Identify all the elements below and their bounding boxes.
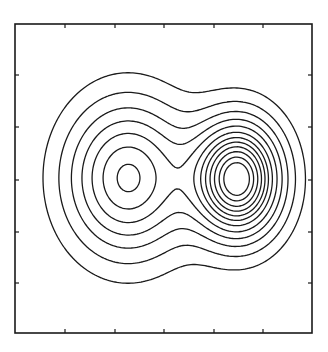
contour-lines: [43, 73, 305, 284]
contour-level-6: [103, 132, 272, 225]
contour-level-2: [59, 92, 296, 263]
contour-level-12: [224, 163, 250, 196]
plot-frame: [15, 24, 312, 333]
contour-plot: [0, 0, 328, 352]
contour-level-10: [215, 152, 258, 207]
axis-ticks: [15, 24, 312, 333]
plot-canvas: [0, 0, 328, 352]
